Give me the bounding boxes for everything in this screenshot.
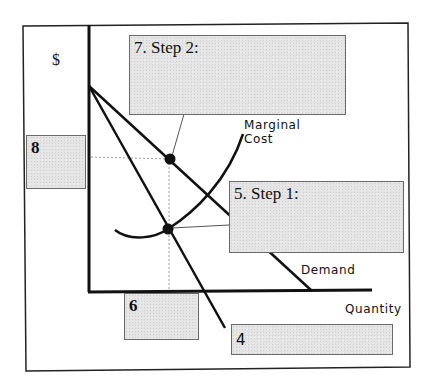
answer-box-8[interactable]: 8 bbox=[26, 135, 86, 189]
x-axis bbox=[88, 290, 372, 292]
answer-box-6[interactable]: 6 bbox=[124, 293, 199, 340]
answer-box-8-label: 8 bbox=[31, 138, 40, 158]
y-axis-label: $ bbox=[52, 51, 60, 69]
answer-box-6-label: 6 bbox=[129, 296, 138, 316]
answer-box-step2-label: 7. Step 2: bbox=[134, 38, 199, 58]
answer-box-step1[interactable]: 5. Step 1: bbox=[229, 181, 404, 253]
demand-label: Demand bbox=[301, 263, 356, 277]
quantity-point bbox=[163, 224, 174, 235]
price-point bbox=[165, 154, 176, 165]
marginal-cost-curve bbox=[115, 134, 243, 237]
answer-box-4[interactable]: 4 bbox=[231, 324, 393, 355]
step2-connector bbox=[172, 114, 184, 156]
marginal-cost-label-line1: Marginal bbox=[244, 118, 300, 132]
answer-box-4-label: 4 bbox=[236, 330, 246, 350]
answer-box-step2[interactable]: 7. Step 2: bbox=[129, 35, 346, 115]
step1-connector bbox=[172, 225, 229, 228]
x-axis-label: Quantity bbox=[345, 302, 402, 316]
marginal-cost-label-line2: Cost bbox=[244, 132, 273, 146]
answer-box-step1-label: 5. Step 1: bbox=[234, 184, 299, 204]
